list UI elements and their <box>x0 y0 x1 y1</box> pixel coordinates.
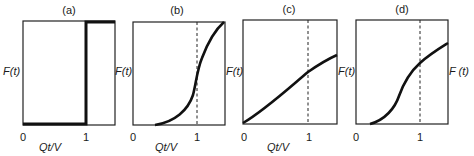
panel-a-xlabel: Qt/V <box>39 141 63 153</box>
panel-a-tick-1: 1 <box>83 131 89 143</box>
panel-c-tick-1: 1 <box>306 131 312 143</box>
panel-d-title: (d) <box>395 3 408 15</box>
panel-d-tick-1: 1 <box>417 131 423 143</box>
right-ylabel: F (t) <box>449 65 469 77</box>
panel-a-frame <box>23 21 115 125</box>
panel-d: (d) F(t) 0 1 F (t) <box>338 3 469 143</box>
panel-a-step-curve <box>23 22 115 124</box>
panel-d-curve <box>370 43 448 124</box>
panel-b-curve <box>155 22 224 125</box>
panel-d-ylabel: F(t) <box>338 65 355 77</box>
panel-b-tick-0: 0 <box>130 131 136 143</box>
residence-time-figure: (a) F(t) 0 1 Qt/V (b) F(t) 0 1 Qt/V (c) … <box>0 0 474 156</box>
panel-c-ylabel: F(t) <box>226 65 243 77</box>
panel-a-tick-0: 0 <box>20 131 26 143</box>
panel-a: (a) F(t) 0 1 Qt/V <box>3 4 115 153</box>
panel-c-title: (c) <box>283 3 296 15</box>
panel-b-title: (b) <box>170 4 183 16</box>
panel-c-curve <box>243 55 337 123</box>
panel-a-ylabel: F(t) <box>3 65 20 77</box>
panel-b: (b) F(t) 0 1 Qt/V <box>115 4 225 153</box>
panel-d-tick-0: 0 <box>353 131 359 143</box>
panel-c-tick-0: 0 <box>241 131 247 143</box>
panel-b-tick-1: 1 <box>194 131 200 143</box>
panel-c-xlabel: Qt/V <box>267 141 291 153</box>
panel-b-ylabel: F(t) <box>115 65 132 77</box>
panel-a-title: (a) <box>62 4 75 16</box>
panel-b-xlabel: Qt/V <box>155 141 179 153</box>
panel-c-frame <box>243 20 337 124</box>
panel-d-frame <box>356 20 448 124</box>
panel-c: (c) F(t) 0 1 Qt/V <box>226 3 337 153</box>
